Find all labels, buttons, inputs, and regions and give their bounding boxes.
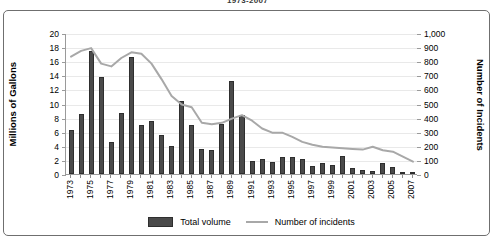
chart-legend: Total volume Number of incidents <box>4 217 495 227</box>
x-axis-tick <box>211 175 212 178</box>
x-axis-label-1991: 1991 <box>247 180 256 199</box>
x-axis-label-1981: 1981 <box>146 180 155 199</box>
legend-swatch-total-volume <box>148 217 173 227</box>
right-axis-tick-label: 200 <box>424 143 438 152</box>
x-axis-tick <box>120 175 121 178</box>
left-axis-tick-label: 8 <box>54 114 59 123</box>
x-axis-label-1973: 1973 <box>66 180 75 199</box>
right-axis-tick-label: 0 <box>424 171 429 180</box>
legend-swatch-number-of-incidents <box>246 221 268 223</box>
x-axis-label-1989: 1989 <box>226 180 235 199</box>
chart-title: 1973-2007 <box>0 0 495 4</box>
x-axis-tick <box>181 175 182 178</box>
x-axis-tick <box>191 175 192 178</box>
x-axis-tick <box>150 175 151 178</box>
x-axis-tick <box>70 175 71 178</box>
left-axis-tick-label: 6 <box>54 128 59 137</box>
left-axis-tick-label: 4 <box>54 143 59 152</box>
x-axis-tick <box>221 175 222 178</box>
x-axis-label-1993: 1993 <box>267 180 276 199</box>
x-axis-tick <box>110 175 111 178</box>
x-axis-tick <box>90 175 91 178</box>
x-axis-label-1995: 1995 <box>287 180 296 199</box>
x-axis-tick <box>301 175 302 178</box>
right-axis-tick-label: 1,000 <box>424 30 445 39</box>
x-axis-tick <box>251 175 252 178</box>
x-axis-tick <box>291 175 292 178</box>
x-axis-tick <box>130 175 131 178</box>
right-axis-tick-label: 300 <box>424 128 438 137</box>
x-axis-tick <box>342 175 343 178</box>
x-axis-tick <box>201 175 202 178</box>
x-axis-label-2001: 2001 <box>347 180 356 199</box>
line-series-number-of-incidents <box>66 34 418 175</box>
right-axis-tick-label: 100 <box>424 157 438 166</box>
left-axis-tick-label: 12 <box>50 86 59 95</box>
right-axis-tick-label: 600 <box>424 86 438 95</box>
x-axis-tick <box>100 175 101 178</box>
left-axis-tick-label: 10 <box>50 100 59 109</box>
x-axis-tick <box>261 175 262 178</box>
right-axis-title: Number of Incidents <box>473 34 487 175</box>
left-axis-tick-label: 16 <box>50 58 59 67</box>
x-axis-tick <box>321 175 322 178</box>
x-axis-tick <box>161 175 162 178</box>
right-axis-tick <box>417 175 421 176</box>
x-axis-tick <box>362 175 363 178</box>
x-axis-label-1979: 1979 <box>126 180 135 199</box>
x-axis-tick <box>412 175 413 178</box>
x-axis-tick <box>332 175 333 178</box>
x-axis-label-1975: 1975 <box>86 180 95 199</box>
x-axis-tick <box>311 175 312 178</box>
left-axis-title-label: Millions of Gallons <box>7 62 18 146</box>
incidents-line <box>71 48 413 162</box>
right-axis-tick-label: 700 <box>424 72 438 81</box>
legend-label-number-of-incidents: Number of incidents <box>275 217 355 227</box>
x-axis-label-2005: 2005 <box>387 180 396 199</box>
x-axis-label-1983: 1983 <box>166 180 175 199</box>
x-axis-tick <box>402 175 403 178</box>
right-axis-title-label: Number of Incidents <box>475 59 486 151</box>
left-axis-tick-label: 20 <box>50 30 59 39</box>
x-axis-tick <box>80 175 81 178</box>
x-axis-label-2003: 2003 <box>367 180 376 199</box>
x-axis-tick <box>140 175 141 178</box>
x-axis-tick <box>241 175 242 178</box>
x-axis-tick <box>352 175 353 178</box>
x-axis-label-1987: 1987 <box>206 180 215 199</box>
x-axis-tick <box>392 175 393 178</box>
x-axis-tick <box>231 175 232 178</box>
x-axis-tick <box>171 175 172 178</box>
plot-area: 20181614121086420 1,00090080070060050040… <box>65 34 417 175</box>
right-axis-tick-label: 900 <box>424 44 438 53</box>
right-axis-tick-label: 400 <box>424 114 438 123</box>
x-axis-tick <box>372 175 373 178</box>
right-axis-tick-label: 800 <box>424 58 438 67</box>
x-axis-label-1997: 1997 <box>307 180 316 199</box>
left-axis-title: Millions of Gallons <box>5 34 19 175</box>
x-axis-label-1977: 1977 <box>106 180 115 199</box>
legend-label-total-volume: Total volume <box>180 217 231 227</box>
x-axis-tick <box>382 175 383 178</box>
x-axis-tick <box>281 175 282 178</box>
left-axis-tick-label: 2 <box>54 157 59 166</box>
left-axis-tick-label: 14 <box>50 72 59 81</box>
left-axis-tick-label: 0 <box>54 171 59 180</box>
x-axis-label-2007: 2007 <box>407 180 416 199</box>
left-axis-tick-label: 18 <box>50 44 59 53</box>
right-axis-tick-label: 500 <box>424 100 438 109</box>
x-axis-label-1985: 1985 <box>186 180 195 199</box>
x-axis-tick <box>271 175 272 178</box>
x-axis-label-1999: 1999 <box>327 180 336 199</box>
chart-page: 1973-2007 Millions of Gallons Number of … <box>0 0 495 247</box>
chart-frame: Millions of Gallons Number of Incidents … <box>3 10 490 236</box>
